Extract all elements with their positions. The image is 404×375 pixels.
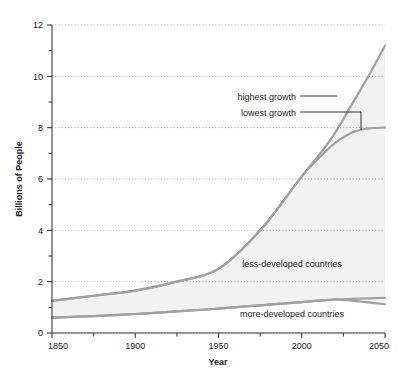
x-tick-label: 1850: [48, 341, 68, 351]
series-label-more-developed: more-developed countries: [240, 309, 345, 319]
x-axis-tick-labels: 18501900195020002050: [48, 341, 389, 351]
y-tick-label: 6: [38, 174, 43, 184]
x-tick-label: 2050: [369, 341, 389, 351]
annotation-highest-growth: highest growth: [237, 92, 296, 102]
y-tick-label: 12: [33, 20, 43, 30]
annotation-lowest-growth: lowest growth: [241, 108, 296, 118]
population-growth-chart: 024681012 18501900195020002050 Billions …: [0, 0, 404, 375]
x-axis-title: Year: [208, 357, 228, 367]
x-tick-label: 1950: [208, 341, 228, 351]
x-tick-label: 2000: [292, 341, 312, 351]
y-axis-title: Billions of People: [14, 141, 24, 217]
y-axis-ticks: [47, 25, 52, 333]
y-tick-label: 10: [33, 72, 43, 82]
y-tick-label: 8: [38, 123, 43, 133]
y-tick-label: 4: [38, 226, 43, 236]
y-tick-label: 0: [38, 328, 43, 338]
series-label-less-developed: less-developed countries: [242, 259, 342, 269]
y-axis-tick-labels: 024681012: [33, 20, 43, 338]
x-tick-label: 1900: [125, 341, 145, 351]
chart-svg: 024681012 18501900195020002050 Billions …: [0, 0, 404, 375]
y-tick-label: 2: [38, 277, 43, 287]
x-axis-ticks: [52, 333, 385, 338]
